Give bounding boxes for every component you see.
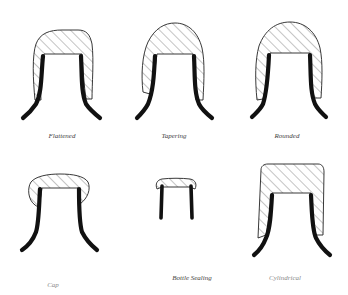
tapering-lip-shape	[137, 23, 212, 118]
bottle-sealing-leg-right	[191, 186, 192, 218]
cap-lip-shape	[22, 174, 97, 250]
bottle-sealing-leg-left	[161, 186, 162, 218]
label-rounded: Rounded	[275, 132, 300, 140]
flattened-lip-shape	[23, 30, 100, 118]
label-flattened: Flattened	[49, 132, 76, 140]
lip-shapes-diagram	[0, 0, 348, 295]
label-cylindrical: Cylindrical	[269, 274, 301, 282]
label-tapering: Tapering	[161, 132, 186, 140]
label-cap: Cap	[47, 281, 59, 289]
label-bottle-sealing: Bottle Sealing	[172, 274, 211, 282]
rounded-lip-shape	[252, 22, 326, 117]
cylindrical-lip-shape	[254, 164, 330, 255]
bottle-sealing-lip-shape	[156, 178, 196, 218]
